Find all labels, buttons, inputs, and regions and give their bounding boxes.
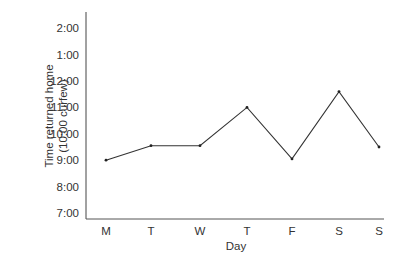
x-tick-label: T (147, 225, 154, 237)
y-tick-label: 9:00 (57, 154, 79, 166)
x-tick-label: F (288, 225, 295, 237)
axes (86, 12, 384, 219)
x-tick-label: W (195, 225, 206, 237)
data-point (199, 144, 202, 147)
y-tick-label: 1:00 (57, 49, 79, 61)
x-tick-labels: MTWTFSS (101, 225, 383, 237)
data-point (291, 158, 294, 161)
x-tick-label: M (101, 225, 111, 237)
y-tick-label: 7:00 (57, 207, 79, 219)
x-tick-label: S (335, 225, 343, 237)
data-point (378, 146, 381, 149)
y-tick-label: 2:00 (57, 22, 79, 34)
y-tick-label: 8:00 (57, 181, 79, 193)
x-axis-title: Day (226, 240, 247, 252)
data-line (106, 92, 379, 161)
data-point (150, 144, 153, 147)
y-axis-title-sub: (10:00 curfew) (57, 79, 69, 153)
line-chart: 7:008:009:0010:0011:0012:001:002:00 MTWT… (0, 0, 401, 264)
x-tick-label: S (375, 225, 383, 237)
data-point (105, 159, 108, 162)
x-tick-label: T (243, 225, 250, 237)
data-points (105, 90, 381, 161)
y-axis-title-main: Time returned home (43, 64, 55, 167)
data-point (246, 106, 249, 109)
data-point (338, 90, 341, 93)
